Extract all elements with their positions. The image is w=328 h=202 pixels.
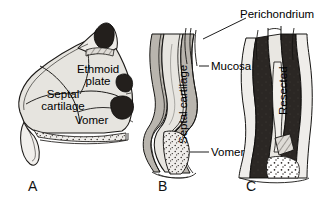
label-vomer-b: Vomer <box>211 146 244 158</box>
label-septal-line2: cartilage <box>41 100 84 112</box>
label-ethmoid-line2: plate <box>86 75 111 87</box>
leader-lines <box>190 18 246 152</box>
label-septal-line1: Septal <box>47 88 80 100</box>
label-ethmoid-plate: Ethmoid plate <box>63 63 133 87</box>
leader-perichondrium <box>203 18 246 39</box>
label-ethmoid-line1: Ethmoid <box>77 63 119 75</box>
label-mucosa: Mucosa <box>211 60 251 72</box>
label-resected: Resected <box>277 66 289 115</box>
label-septal-cartilage-a: Septal cartilage <box>27 88 99 112</box>
label-vomer-a: Vomer <box>75 114 108 126</box>
nasal-septum-figure: Septal cartilage Ethmoid plate Vomer Sep… <box>0 0 328 202</box>
panel-letter-a: A <box>28 178 37 194</box>
label-perichondrium: Perichondrium <box>240 8 314 20</box>
panel-b-artwork <box>143 28 197 178</box>
panel-c-artwork <box>239 26 312 183</box>
label-septal-cartilage-b: Septal cartilage <box>177 65 189 144</box>
panel-letter-b: B <box>158 178 167 194</box>
panel-letter-c: C <box>246 178 256 194</box>
